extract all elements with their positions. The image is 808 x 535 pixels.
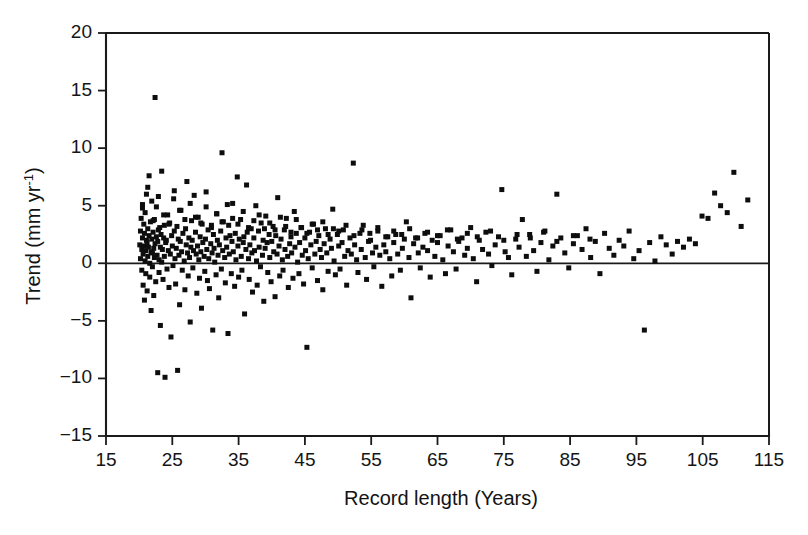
data-point xyxy=(239,254,244,259)
data-point xyxy=(142,298,147,303)
data-point xyxy=(174,224,179,229)
data-point xyxy=(188,320,193,325)
data-point xyxy=(162,254,167,259)
svg-text:Trend (mm yr-1): Trend (mm yr-1) xyxy=(21,167,44,305)
data-point xyxy=(214,272,219,277)
data-point xyxy=(280,257,285,262)
data-point xyxy=(294,217,299,222)
data-point xyxy=(257,245,262,250)
data-point xyxy=(141,283,146,288)
data-point xyxy=(588,255,593,260)
data-point xyxy=(489,263,494,268)
data-point xyxy=(652,258,657,263)
data-point xyxy=(642,328,647,333)
data-point xyxy=(199,306,204,311)
data-point xyxy=(411,241,416,246)
data-point xyxy=(318,247,323,252)
data-point xyxy=(140,206,145,211)
data-point xyxy=(460,235,465,240)
data-point xyxy=(177,302,182,307)
data-point xyxy=(326,232,331,237)
data-point xyxy=(534,269,539,274)
data-point xyxy=(395,252,400,257)
y-axis-title-close-paren: ) xyxy=(22,167,44,174)
data-point xyxy=(435,240,440,245)
data-point xyxy=(515,232,520,237)
data-point xyxy=(161,277,166,282)
data-point xyxy=(670,252,675,257)
data-point xyxy=(320,219,325,224)
data-point xyxy=(204,204,209,209)
data-point xyxy=(354,257,359,262)
y-tick-label: 10 xyxy=(71,136,92,157)
data-point xyxy=(230,216,235,221)
data-point xyxy=(219,267,224,272)
data-point xyxy=(154,204,159,209)
data-point xyxy=(210,250,215,255)
data-point xyxy=(440,257,445,262)
data-point xyxy=(151,293,156,298)
data-point xyxy=(180,268,185,273)
data-point xyxy=(259,220,264,225)
data-point xyxy=(407,226,412,231)
data-point xyxy=(255,283,260,288)
data-point xyxy=(391,240,396,245)
data-point xyxy=(151,230,156,235)
data-point xyxy=(296,271,301,276)
data-point xyxy=(262,226,267,231)
data-point xyxy=(303,248,308,253)
data-point xyxy=(168,252,173,257)
data-point xyxy=(210,328,215,333)
data-point xyxy=(471,256,476,261)
data-point xyxy=(400,246,405,251)
x-tick-label: 45 xyxy=(294,449,315,470)
data-point xyxy=(294,231,299,236)
data-point xyxy=(217,242,222,247)
data-point xyxy=(290,276,295,281)
data-point xyxy=(142,231,147,236)
data-point xyxy=(289,250,294,255)
data-point xyxy=(145,226,150,231)
data-point xyxy=(468,225,473,230)
data-point xyxy=(443,271,448,276)
data-point xyxy=(310,265,315,270)
data-point xyxy=(166,222,171,227)
data-point xyxy=(216,253,221,258)
data-point xyxy=(304,345,309,350)
y-tick-label: 20 xyxy=(71,21,92,42)
data-point xyxy=(725,210,730,215)
data-point xyxy=(486,252,491,257)
data-point xyxy=(284,216,289,221)
data-point xyxy=(273,294,278,299)
data-point xyxy=(398,268,403,273)
data-point xyxy=(263,246,268,251)
y-tick-label: 0 xyxy=(81,251,92,272)
data-point xyxy=(580,247,585,252)
data-point xyxy=(297,240,302,245)
data-point xyxy=(383,249,388,254)
data-point xyxy=(352,242,357,247)
data-point xyxy=(257,212,262,217)
data-point xyxy=(223,280,228,285)
data-point xyxy=(216,295,221,300)
data-point xyxy=(513,237,518,242)
data-point xyxy=(187,255,192,260)
data-point xyxy=(258,264,263,269)
data-point xyxy=(170,263,175,268)
data-point xyxy=(211,232,216,237)
data-point xyxy=(159,260,164,265)
data-point xyxy=(204,247,209,252)
data-point xyxy=(566,265,571,270)
data-point xyxy=(177,208,182,213)
data-point xyxy=(220,219,225,224)
data-point xyxy=(206,256,211,261)
data-point xyxy=(435,233,440,238)
data-point xyxy=(375,225,380,230)
data-point xyxy=(143,258,148,263)
data-point xyxy=(538,240,543,245)
data-point xyxy=(160,247,165,252)
x-tick-label: 25 xyxy=(162,449,183,470)
data-point xyxy=(292,245,297,250)
data-point xyxy=(182,217,187,222)
data-point xyxy=(144,192,149,197)
